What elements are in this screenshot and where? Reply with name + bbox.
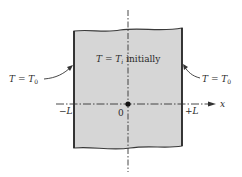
- plus-L-label: +L: [185, 106, 199, 116]
- x-axis-arrowhead-icon: [208, 102, 216, 107]
- origin-dot: [125, 101, 130, 106]
- right-arrowhead-icon: [183, 64, 188, 70]
- origin-label: 0: [118, 108, 124, 118]
- right-boundary-label: T = T0: [202, 74, 231, 85]
- x-axis-label: x: [220, 99, 225, 109]
- slab-diagram: T = Ti initially T = T0 T = T0 −L 0 +L x: [0, 0, 242, 177]
- left-boundary-label: T = T0: [9, 74, 38, 85]
- minus-L-label: −L: [59, 106, 73, 116]
- initial-condition-label: T = Ti initially: [96, 54, 161, 65]
